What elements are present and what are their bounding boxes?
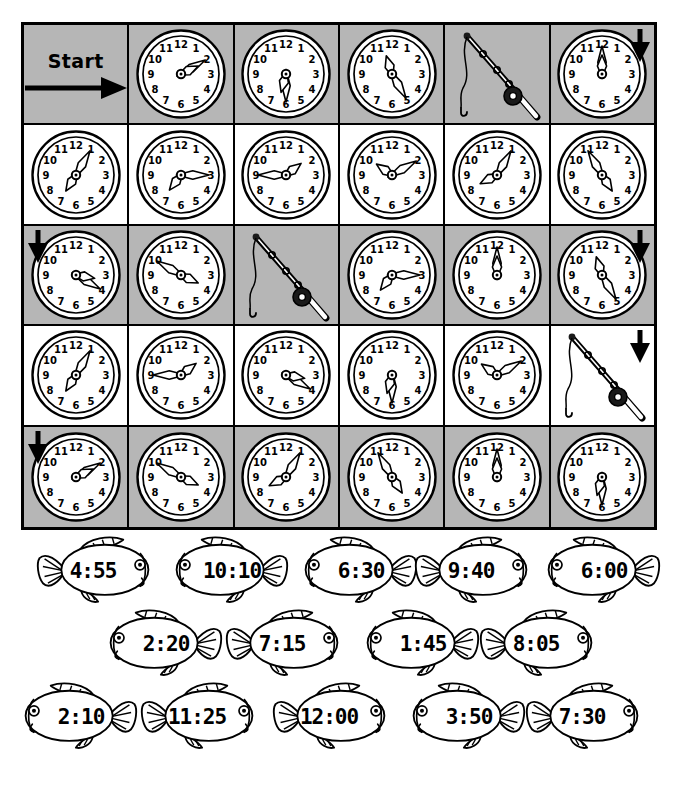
analog-clock-face: 121234567891011 bbox=[556, 431, 648, 523]
clock-numeral: 3 bbox=[313, 169, 320, 180]
maze-row: Start12123456789101112123456789101112123… bbox=[24, 25, 654, 125]
clock-numeral: 3 bbox=[313, 370, 320, 381]
clock-numeral: 12 bbox=[279, 39, 293, 50]
clock-numeral: 5 bbox=[193, 296, 200, 307]
clock-numeral: 12 bbox=[174, 240, 188, 251]
maze-clock-cell: 121234567891011 bbox=[551, 226, 654, 324]
clock-numeral: 3 bbox=[313, 471, 320, 482]
clock-numeral: 3 bbox=[523, 270, 530, 281]
clock-numeral: 8 bbox=[152, 385, 159, 396]
fish-time-card[interactable]: 10:10 bbox=[163, 533, 289, 609]
clock-numeral: 1 bbox=[403, 43, 410, 54]
clock-numeral: 2 bbox=[203, 355, 210, 366]
fish-shape bbox=[272, 679, 398, 751]
fish-time-card[interactable]: 3:50 bbox=[400, 679, 526, 755]
maze-clock-cell: 121234567891011 bbox=[129, 125, 234, 223]
maze-rod-cell bbox=[235, 226, 340, 324]
clock-numeral: 10 bbox=[464, 456, 478, 467]
maze-clock-cell: 121234567891011 bbox=[445, 125, 550, 223]
clock-numeral: 1 bbox=[87, 445, 94, 456]
clock-numeral: 5 bbox=[298, 95, 305, 106]
maze-clock-cell: 121234567891011 bbox=[129, 427, 234, 527]
fish-time-card[interactable]: 11:25 bbox=[140, 679, 266, 755]
maze-clock-cell: 121234567891011 bbox=[340, 326, 445, 424]
clock-numeral: 9 bbox=[148, 471, 155, 482]
fish-shape bbox=[163, 533, 289, 605]
clock-numeral: 4 bbox=[519, 285, 526, 296]
clock-numeral: 9 bbox=[358, 270, 365, 281]
clock-numeral: 10 bbox=[359, 456, 373, 467]
clock-numeral: 11 bbox=[370, 43, 384, 54]
clock-numeral: 2 bbox=[203, 54, 210, 65]
clock-numeral: 8 bbox=[362, 285, 369, 296]
clock-numeral: 1 bbox=[614, 43, 621, 54]
clock-numeral: 6 bbox=[599, 300, 606, 311]
clock-numeral: 5 bbox=[87, 497, 94, 508]
clock-numeral: 12 bbox=[490, 139, 504, 150]
clock-numeral: 4 bbox=[625, 486, 632, 497]
fish-shape bbox=[225, 606, 351, 678]
fish-time-card[interactable]: 1:45 bbox=[354, 606, 480, 682]
maze-direction-arrow bbox=[27, 228, 49, 268]
clock-numeral: 10 bbox=[359, 154, 373, 165]
clock-numeral: 12 bbox=[174, 139, 188, 150]
fish-time-card[interactable]: 12:00 bbox=[272, 679, 398, 755]
clock-numeral: 6 bbox=[388, 501, 395, 512]
clock-numeral: 4 bbox=[414, 84, 421, 95]
clock-numeral: 5 bbox=[298, 195, 305, 206]
clock-numeral: 1 bbox=[508, 344, 515, 355]
start-cell: Start bbox=[24, 25, 129, 123]
clock-numeral: 4 bbox=[98, 285, 105, 296]
fish-time-card[interactable]: 2:20 bbox=[97, 606, 223, 682]
fish-time-card[interactable]: 6:30 bbox=[292, 533, 418, 609]
fish-time-card[interactable]: 7:30 bbox=[525, 679, 651, 755]
clock-numeral: 5 bbox=[508, 296, 515, 307]
clock-numeral: 6 bbox=[599, 199, 606, 210]
analog-clock-face: 121234567891011 bbox=[135, 28, 227, 120]
maze-direction-arrow bbox=[629, 228, 651, 268]
fish-time-card[interactable]: 7:15 bbox=[225, 606, 351, 682]
analog-clock-face: 121234567891011 bbox=[135, 431, 227, 523]
analog-clock-face: 121234567891011 bbox=[346, 329, 438, 421]
fish-time-card[interactable]: 9:40 bbox=[414, 533, 540, 609]
clock-numeral: 5 bbox=[614, 195, 621, 206]
clock-numeral: 10 bbox=[569, 154, 583, 165]
clock-numeral: 3 bbox=[208, 370, 215, 381]
clock-numeral: 3 bbox=[629, 471, 636, 482]
clock-numeral: 9 bbox=[358, 370, 365, 381]
clock-numeral: 11 bbox=[159, 244, 173, 255]
clock-numeral: 9 bbox=[358, 169, 365, 180]
clock-numeral: 12 bbox=[490, 340, 504, 351]
clock-numeral: 7 bbox=[57, 296, 64, 307]
clock-numeral: 12 bbox=[385, 39, 399, 50]
clock-numeral: 2 bbox=[414, 255, 421, 266]
clock-numeral: 7 bbox=[163, 396, 170, 407]
clock-numeral: 5 bbox=[508, 195, 515, 206]
clock-numeral: 10 bbox=[148, 154, 162, 165]
clock-numeral: 6 bbox=[493, 501, 500, 512]
clock-numeral: 7 bbox=[163, 497, 170, 508]
maze-rod-cell bbox=[445, 25, 550, 123]
fish-time-card[interactable]: 6:00 bbox=[535, 533, 661, 609]
clock-numeral: 4 bbox=[309, 184, 316, 195]
analog-clock-face: 121234567891011 bbox=[135, 329, 227, 421]
clock-numeral: 12 bbox=[595, 139, 609, 150]
clock-numeral: 8 bbox=[573, 84, 580, 95]
maze-clock-cell: 121234567891011 bbox=[24, 226, 129, 324]
fish-shape bbox=[400, 679, 526, 751]
clock-numeral: 9 bbox=[148, 169, 155, 180]
clock-numeral: 5 bbox=[403, 195, 410, 206]
clock-numeral: 12 bbox=[174, 340, 188, 351]
clock-numeral: 5 bbox=[87, 195, 94, 206]
clock-numeral: 4 bbox=[625, 84, 632, 95]
fish-time-card[interactable]: 4:55 bbox=[36, 533, 162, 609]
analog-clock-face: 121234567891011 bbox=[240, 329, 332, 421]
clock-numeral: 10 bbox=[43, 154, 57, 165]
fish-time-card[interactable]: 2:10 bbox=[12, 679, 138, 755]
analog-clock-face: 121234567891011 bbox=[135, 229, 227, 321]
clock-numeral: 12 bbox=[69, 441, 83, 452]
maze-row: 1212345678910111212345678910111212345678… bbox=[24, 427, 654, 527]
clock-numeral: 2 bbox=[98, 456, 105, 467]
clock-numeral: 5 bbox=[508, 497, 515, 508]
fish-time-card[interactable]: 8:05 bbox=[479, 606, 605, 682]
